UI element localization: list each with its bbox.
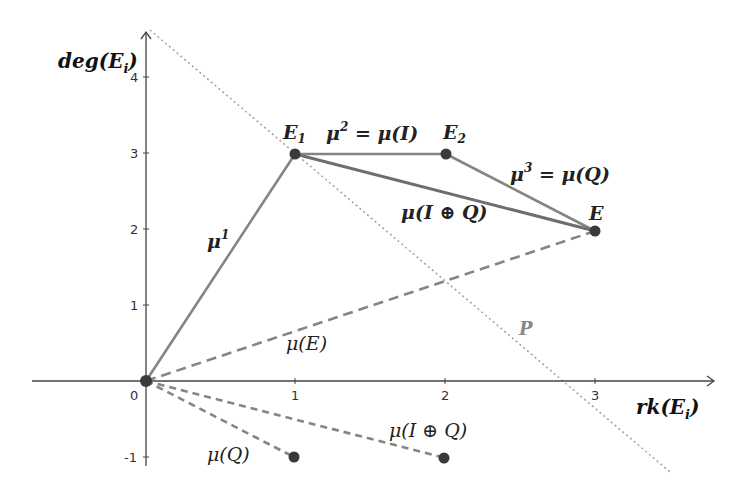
point-mu-iq [439,453,450,464]
x-tick-1: 1 [291,388,299,403]
segment-mu1 [146,154,295,381]
label-e1: E1 [282,121,306,146]
label-mu2: μ2 = μ(I) [326,120,418,144]
label-e2: E2 [442,121,466,146]
label-mu-q: μ(Q) [207,443,250,465]
label-p: P [518,318,533,339]
x-axis-label: rk(Ei) [636,395,700,422]
label-e: E [588,202,604,224]
y-axis [141,32,151,466]
x-axis [32,376,714,386]
y-tick-2: 2 [130,222,138,237]
point-e [590,226,601,237]
line-p [150,30,670,472]
label-mu1: μ1 [207,228,229,252]
label-mu-iq-upper: μ(I ⊕ Q) [401,201,487,223]
point-origin [140,375,152,387]
point-e1 [290,149,301,160]
y-tick-neg1: -1 [124,450,137,465]
y-tick-3: 3 [130,146,138,161]
x-tick-0: 0 [130,388,138,403]
segment-mu-e [146,231,595,381]
x-tick-2: 2 [441,388,449,403]
point-mu-q [289,452,300,463]
y-axis-label: deg(Ei) [58,49,138,76]
slope-diagram: 0 1 2 3 4 3 2 1 -1 deg(Ei) rk(Ei) E1 E2 … [0,0,741,493]
label-mu-e: μ(E) [286,332,327,354]
label-mu3: μ3 = μ(Q) [510,161,610,185]
label-mu-iq-lower: μ(I ⊕ Q) [389,419,467,441]
y-tick-1: 1 [130,298,138,313]
x-tick-3: 3 [591,388,599,403]
point-e2 [441,149,452,160]
